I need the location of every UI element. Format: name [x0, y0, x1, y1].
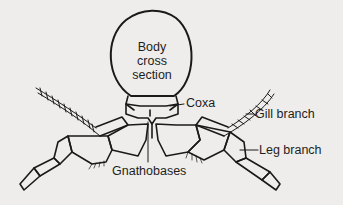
right-leg-segment-3	[224, 132, 246, 162]
gill-branch-label: Gill branch	[255, 108, 315, 121]
right-leg-segment-1	[156, 124, 200, 156]
body-cross-section-label: Body cross section	[117, 40, 187, 82]
diagram-canvas: Body cross section Coxa Gill branch Leg …	[0, 0, 343, 205]
coxa-shape	[126, 104, 178, 124]
left-leg-segment-1	[108, 124, 148, 156]
label-line: Body	[117, 40, 187, 54]
label-line: cross	[117, 54, 187, 68]
right-leg-tip	[262, 172, 280, 190]
left-leg-segment-2	[68, 136, 112, 164]
coxa-label: Coxa	[186, 97, 215, 110]
leg-branch-label: Leg branch	[259, 144, 322, 157]
gnathobases-label: Gnathobases	[112, 165, 186, 178]
left-gill-branch	[36, 88, 100, 136]
left-leg-tip	[20, 168, 40, 190]
label-line: section	[117, 68, 187, 82]
